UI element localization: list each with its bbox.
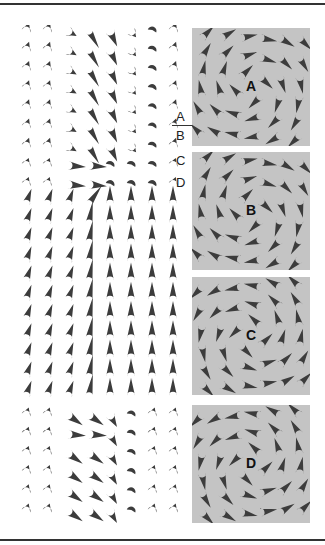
panel-label-a: A [246,79,256,93]
side-label-d: D [176,176,185,189]
panel-c: C [192,277,310,395]
panel-d: D [192,405,310,523]
vector-field [18,25,188,525]
a-b-divider [172,125,192,126]
top-rule [0,3,325,5]
panel-label-d: D [246,456,256,470]
side-label-b: B [176,129,185,142]
side-label-c: C [176,154,185,167]
panel-label-b: B [246,203,256,217]
panel-a: A [192,28,310,146]
side-label-a: A [176,110,185,123]
bottom-rule [0,539,325,541]
panel-label-c: C [246,328,256,342]
panel-b: B [192,152,310,270]
